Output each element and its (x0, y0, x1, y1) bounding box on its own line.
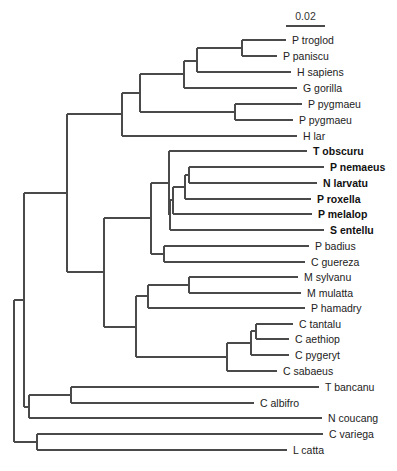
taxon-label: P paniscu (283, 50, 329, 62)
taxon-label: C guereza (311, 256, 360, 268)
taxon-label: N coucang (328, 412, 378, 424)
taxon-label: C aethiop (295, 333, 340, 345)
taxon-label: C variega (329, 428, 374, 440)
taxon-label: H sapiens (297, 66, 344, 78)
taxon-label: P troglod (292, 34, 334, 46)
taxon-label: T bancanu (325, 381, 375, 393)
taxon-label: P nemaeus (330, 161, 385, 173)
taxon-labels: P troglodP paniscuH sapiensG gorillaP py… (260, 34, 385, 456)
taxon-label: P pygmaeu (299, 114, 352, 126)
phylogenetic-tree: 0.02 P troglodP paniscuH sapiensG gorill… (0, 0, 397, 471)
taxon-label: M mulatta (307, 287, 353, 299)
taxon-label: H lar (303, 130, 326, 142)
taxon-label: T obscuru (313, 145, 364, 157)
taxon-label: P melalop (318, 208, 367, 220)
taxon-label: C pygeryt (295, 349, 340, 361)
taxon-label: C albifro (260, 397, 299, 409)
taxon-label: P roxella (317, 193, 361, 205)
terminal-branches (29, 40, 324, 450)
taxon-label: M sylvanu (304, 271, 351, 283)
taxon-label: N larvatu (323, 177, 368, 189)
taxon-label: L catta (293, 444, 324, 456)
internal-branches (14, 40, 256, 450)
taxon-label: G gorilla (303, 82, 342, 94)
scale-bar: 0.02 (286, 10, 325, 26)
scale-bar-label: 0.02 (295, 10, 316, 22)
taxon-label: C tantalu (299, 318, 341, 330)
taxon-label: P pygmaeu (308, 98, 361, 110)
taxon-label: C sabaeus (283, 365, 333, 377)
taxon-label: P hamadry (311, 302, 362, 314)
taxon-label: S entellu (330, 224, 374, 236)
taxon-label: P badius (315, 240, 356, 252)
